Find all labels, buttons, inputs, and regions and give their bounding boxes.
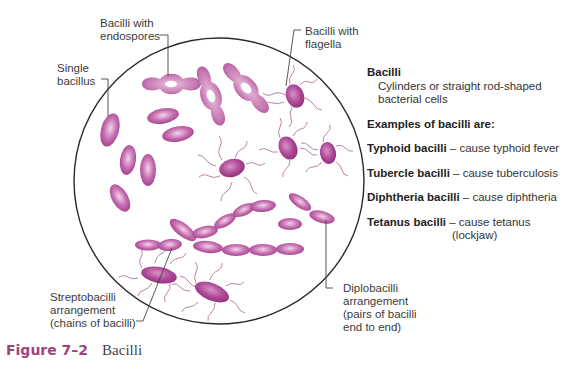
example-name: Tetanus bacilli bbox=[367, 216, 446, 228]
label-endospores-line1: Bacilli with bbox=[100, 17, 160, 30]
example-diphtheria: Diphtheria bacilli – cause diphtheria bbox=[367, 191, 572, 205]
description-line1: Cylinders or straight rod-shaped bbox=[378, 80, 572, 94]
example-effect: – cause diphtheria bbox=[460, 191, 557, 203]
single-bacilli bbox=[97, 106, 302, 230]
figure-number: Figure 7–2 bbox=[6, 342, 88, 358]
example-name: Tubercle bacilli bbox=[367, 167, 450, 179]
example-name: Typhoid bacilli bbox=[367, 142, 447, 154]
label-diplo-line3: (pairs of bacilli bbox=[343, 308, 417, 321]
figure-caption: Figure 7–2Bacilli bbox=[6, 341, 142, 359]
label-diplo-line4: end to end) bbox=[343, 321, 417, 334]
label-endospores-line2: endospores bbox=[100, 30, 160, 43]
info-panel: Bacilli Cylinders or straight rod-shaped… bbox=[367, 66, 572, 243]
panel-heading: Bacilli bbox=[367, 66, 572, 80]
label-flagella-line1: Bacilli with bbox=[305, 25, 359, 38]
example-effect: – cause tuberculosis bbox=[450, 167, 558, 179]
label-diplo-line1: Diplobacilli bbox=[343, 282, 417, 295]
field-circle bbox=[74, 38, 364, 324]
label-strepto-line1: Streptobacilli bbox=[50, 291, 136, 304]
label-strepto-line2: arrangement bbox=[50, 304, 136, 317]
label-single-bacillus: Single bacillus bbox=[57, 62, 95, 88]
label-streptobacilli: Streptobacilli arrangement (chains of ba… bbox=[50, 291, 136, 330]
examples-heading: Examples of bacilli are: bbox=[367, 118, 572, 132]
example-tetanus: Tetanus bacilli – cause tetanus bbox=[367, 216, 572, 230]
example-tubercle: Tubercle bacilli – cause tuberculosis bbox=[367, 167, 572, 181]
label-flagella: Bacilli with flagella bbox=[305, 25, 359, 51]
label-single-line2: bacillus bbox=[57, 75, 95, 88]
label-diplo-line2: arrangement bbox=[343, 295, 417, 308]
label-flagella-line2: flagella bbox=[305, 38, 359, 51]
label-strepto-line3: (chains of bacilli) bbox=[50, 317, 136, 330]
panel-description: Cylinders or straight rod-shaped bacteri… bbox=[367, 80, 572, 107]
description-line2: bacterial cells bbox=[378, 93, 572, 107]
example-effect: – cause tetanus bbox=[446, 216, 530, 228]
example-name: Diphtheria bacilli bbox=[367, 191, 460, 203]
label-diplobacilli: Diplobacilli arrangement (pairs of bacil… bbox=[343, 282, 417, 334]
label-single-line1: Single bbox=[57, 62, 95, 75]
example-effect: – cause typhoid fever bbox=[447, 142, 560, 154]
streptobacilli-chains bbox=[135, 199, 304, 256]
example-tetanus-cont: (lockjaw) bbox=[367, 229, 572, 243]
flagella bbox=[119, 65, 353, 321]
leader-lines bbox=[101, 30, 333, 321]
figure-title: Bacilli bbox=[102, 342, 142, 358]
label-endospores: Bacilli with endospores bbox=[100, 17, 160, 43]
example-typhoid: Typhoid bacilli – cause typhoid fever bbox=[367, 142, 572, 156]
